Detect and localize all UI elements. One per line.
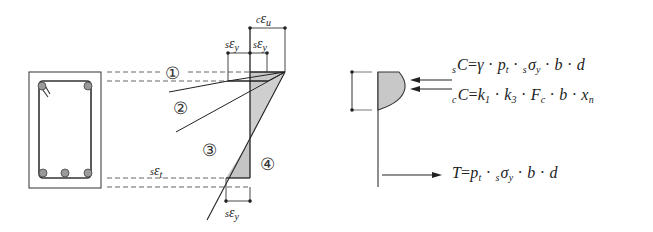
rebar-bottom-middle <box>61 169 69 177</box>
case-3-label: ③ <box>202 141 217 160</box>
projection-lines <box>107 72 250 187</box>
strain-diagram: cεu sεy sεy sεt sεy ① ② ③ ④ <box>150 11 287 222</box>
rebar-bottom-right <box>84 169 92 177</box>
rebar-bottom-left <box>39 169 47 177</box>
label-s-eps-t: sεt <box>150 163 162 180</box>
stress-diagram <box>350 70 452 187</box>
rebar-top-left <box>38 82 46 90</box>
case-2-label: ② <box>173 99 188 118</box>
rebar-top-right <box>84 82 92 90</box>
equation-steel-compression: sC=γ · pt · sσy · b · d <box>452 56 585 75</box>
case-4-label: ④ <box>260 155 275 174</box>
case-1-label: ① <box>165 64 180 83</box>
equation-concrete-compression: cC=k1 · k3 · Fc · b · xn <box>452 86 594 105</box>
equation-tension: T=pt · sσy · b · d <box>452 164 558 183</box>
compression-block <box>378 72 405 110</box>
label-s-eps-y-left: sεy <box>225 36 239 53</box>
label-s-eps-y-bottom: sεy <box>225 205 239 222</box>
rc-section-diagram: cεu sεy sεy sεt sεy ① ② ③ ④ <box>0 0 653 232</box>
label-s-eps-y-right: sεy <box>253 36 267 53</box>
label-c-eps-u: cεu <box>256 11 271 28</box>
beam-cross-section <box>29 72 101 188</box>
strain-line-4 <box>207 72 285 220</box>
